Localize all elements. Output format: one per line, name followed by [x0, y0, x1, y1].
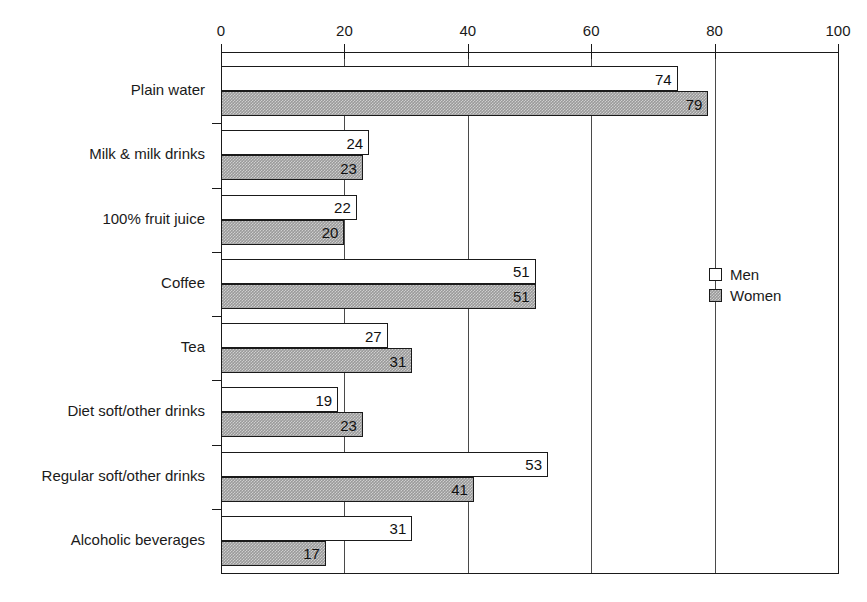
gridline-80 — [715, 59, 716, 573]
legend-item-men[interactable]: Men — [709, 264, 781, 285]
y-tick-mark — [212, 509, 221, 510]
bar-women-0 — [221, 91, 708, 116]
x-tick-label-40: 40 — [459, 22, 476, 39]
bar-value-label-men-2: 22 — [321, 199, 351, 216]
x-tick-mark-100 — [838, 44, 839, 59]
legend-label-men: Men — [730, 266, 759, 283]
x-tick-label-60: 60 — [583, 22, 600, 39]
bar-value-label-women-5: 23 — [327, 416, 357, 433]
plot-frame-bottom — [221, 573, 839, 574]
bar-men-6 — [221, 452, 548, 477]
x-axis-line — [221, 52, 838, 53]
bar-value-label-men-5: 19 — [302, 391, 332, 408]
bar-value-label-women-6: 41 — [438, 481, 468, 498]
category-label-2: 100% fruit juice — [102, 210, 205, 227]
bar-value-label-men-6: 53 — [512, 456, 542, 473]
y-tick-mark — [212, 380, 221, 381]
bar-men-3 — [221, 259, 536, 284]
x-tick-label-80: 80 — [706, 22, 723, 39]
bar-value-label-women-4: 31 — [376, 352, 406, 369]
bar-value-label-men-4: 27 — [352, 327, 382, 344]
bar-women-3 — [221, 284, 536, 309]
bar-value-label-women-3: 51 — [500, 288, 530, 305]
bar-value-label-women-0: 79 — [672, 95, 702, 112]
category-label-4: Tea — [181, 338, 205, 355]
chart-legend: MenWomen — [709, 264, 781, 306]
gridline-60 — [591, 59, 592, 573]
y-tick-mark — [212, 252, 221, 253]
x-tick-label-0: 0 — [217, 22, 225, 39]
bar-value-label-men-7: 31 — [376, 520, 406, 537]
bar-men-0 — [221, 66, 678, 91]
bar-chart: 020406080100 Plain waterMilk & milk drin… — [0, 0, 867, 602]
gray-hatched-square-icon — [709, 289, 722, 302]
y-tick-mark — [212, 188, 221, 189]
bar-value-label-women-7: 17 — [290, 545, 320, 562]
category-label-0: Plain water — [131, 81, 205, 98]
legend-item-women[interactable]: Women — [709, 285, 781, 306]
bar-value-label-men-1: 24 — [333, 134, 363, 151]
category-label-6: Regular soft/other drinks — [42, 467, 205, 484]
y-tick-mark — [212, 123, 221, 124]
bar-value-label-women-1: 23 — [327, 159, 357, 176]
plot-frame-right — [838, 59, 839, 574]
category-label-3: Coffee — [161, 274, 205, 291]
y-tick-mark — [212, 445, 221, 446]
bar-value-label-women-2: 20 — [308, 224, 338, 241]
category-label-5: Diet soft/other drinks — [67, 402, 205, 419]
category-label-1: Milk & milk drinks — [89, 145, 205, 162]
x-tick-label-20: 20 — [336, 22, 353, 39]
white-square-icon — [709, 268, 722, 281]
legend-label-women: Women — [730, 287, 781, 304]
x-tick-label-100: 100 — [825, 22, 850, 39]
bar-women-6 — [221, 477, 474, 502]
category-label-7: Alcoholic beverages — [71, 531, 205, 548]
y-tick-mark — [212, 316, 221, 317]
bar-value-label-men-0: 74 — [642, 70, 672, 87]
bar-value-label-men-3: 51 — [500, 263, 530, 280]
